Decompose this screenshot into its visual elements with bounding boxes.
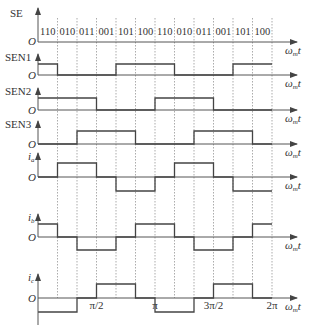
se-label: SE	[10, 7, 23, 19]
sector-row: SEO110010011001101100110010011001101100ω…	[10, 7, 302, 58]
sector-code: 011	[196, 26, 211, 37]
x-axis-label: ωmt	[285, 44, 302, 58]
sector-code: 100	[254, 26, 270, 37]
row-sen3: SEN3Oωmt	[5, 118, 302, 160]
commutation-timing-diagram: SEO110010011001101100110010011001101100ω…	[0, 0, 312, 335]
origin-label: O	[28, 138, 36, 150]
x-axis-label: ωmt	[285, 77, 302, 91]
sector-code: 010	[176, 26, 192, 37]
origin-label: O	[28, 171, 36, 183]
sector-code: 011	[79, 26, 94, 37]
sector-code: 101	[235, 26, 251, 37]
sector-code: 110	[157, 26, 172, 37]
sector-code: 010	[59, 26, 75, 37]
x-axis-label: ωmt	[285, 146, 302, 160]
sen1-label: SEN1	[5, 51, 31, 63]
x-tick-labels: π/2π3π/22π	[89, 299, 278, 311]
row-ic: icOωmt	[28, 271, 302, 314]
origin-label: O	[28, 35, 36, 47]
sector-code: 001	[98, 26, 114, 37]
sector-code: 110	[40, 26, 55, 37]
ib-label: ib	[28, 211, 35, 225]
x-axis-label: ωmt	[285, 112, 302, 126]
x-tick-label: π/2	[89, 299, 103, 311]
row-ib: ibOωmt	[28, 211, 302, 253]
x-axis-label: ωmt	[285, 239, 302, 253]
row-ia: iaOωmt	[28, 150, 302, 193]
x-axis-label: ωmt	[285, 300, 302, 314]
x-tick-label: 3π/2	[204, 299, 224, 311]
origin-label: O	[28, 292, 36, 304]
sector-code: 100	[137, 26, 153, 37]
x-tick-label: 2π	[266, 299, 278, 311]
waveform-rows: SEN1OωmtSEN2OωmtSEN3OωmtiaOωmtibOωmticOω…	[5, 51, 302, 314]
origin-label: O	[28, 231, 36, 243]
row-sen1: SEN1Oωmt	[5, 51, 302, 91]
sen2-label: SEN2	[5, 85, 31, 97]
origin-label: O	[28, 69, 36, 81]
sen3-label: SEN3	[5, 118, 32, 130]
grid-lines	[58, 18, 273, 298]
sector-code: 101	[118, 26, 134, 37]
sector-code: 001	[215, 26, 231, 37]
ia-label: ia	[28, 150, 35, 164]
row-sen2: SEN2Oωmt	[5, 85, 302, 126]
x-axis-label: ωmt	[285, 179, 302, 193]
ic-label: ic	[28, 271, 35, 285]
origin-label: O	[28, 104, 36, 116]
x-tick-label: π	[152, 299, 158, 311]
sen2-waveform	[38, 98, 272, 110]
